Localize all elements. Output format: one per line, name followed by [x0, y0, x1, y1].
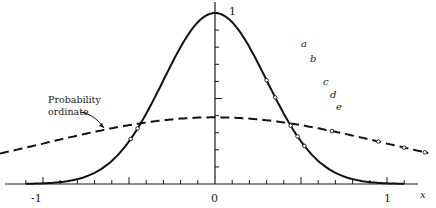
point-label-e: e	[336, 101, 342, 112]
point-marker	[265, 78, 269, 82]
point-marker	[377, 140, 381, 144]
point-label-b: b	[310, 53, 316, 64]
annotation-line-2: ordinate	[48, 106, 89, 117]
point-marker	[273, 96, 277, 100]
point-marker	[402, 146, 406, 150]
annotation-line-1: Probability	[48, 94, 101, 105]
point-marker	[330, 129, 334, 133]
annotation-arrowhead-icon	[99, 123, 104, 128]
point-label-c: c	[323, 76, 329, 87]
point-label-a: a	[301, 38, 307, 49]
point-marker	[289, 124, 293, 128]
x-tick-label-1: 1	[384, 192, 391, 205]
point-label-d: d	[330, 89, 336, 100]
diagram-canvas: 1 -1 0 1 x a b c d e Probability ordinat…	[0, 0, 436, 208]
point-marker	[136, 127, 140, 131]
point-marker	[303, 144, 307, 148]
curve-point-markers	[129, 78, 427, 154]
point-marker	[129, 137, 133, 141]
x-axis-label: x	[420, 189, 426, 200]
point-marker	[296, 135, 300, 139]
point-marker	[423, 151, 427, 155]
y-axis-ticks	[215, 13, 222, 167]
probability-ordinate-curve	[0, 117, 428, 153]
peak-label: 1	[229, 5, 236, 18]
x-tick-label-0: 0	[211, 192, 218, 205]
x-tick-label-neg1: -1	[31, 192, 42, 205]
